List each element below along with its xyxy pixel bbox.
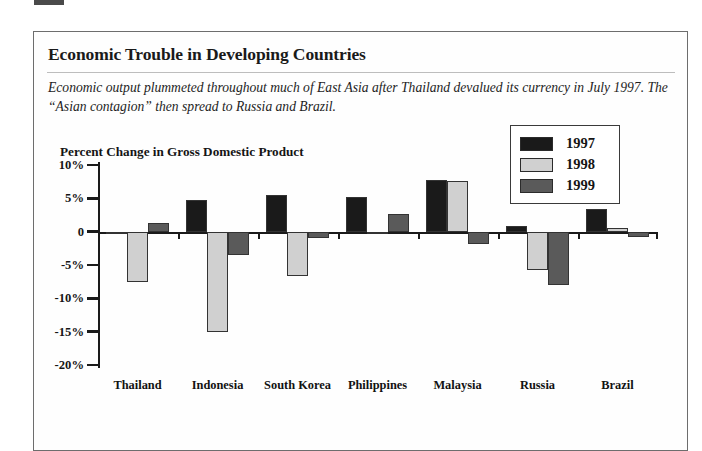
x-axis-tick <box>498 233 500 239</box>
x-axis-category-label: Thailand <box>113 378 161 393</box>
y-axis-tick-label: -20% <box>55 358 84 373</box>
chart-bar <box>586 209 607 232</box>
legend-item: 1997 <box>520 133 610 154</box>
chart-bar <box>367 232 388 234</box>
title-divider <box>47 72 675 73</box>
x-axis-tick <box>656 233 658 239</box>
chart-bar <box>607 228 628 231</box>
y-axis-tick-label: -10% <box>55 291 84 306</box>
chart-bar <box>447 181 468 232</box>
chart-bar <box>548 232 569 285</box>
y-axis-tick <box>87 197 100 199</box>
chart-bar <box>186 200 207 231</box>
x-axis-category-label: Brazil <box>601 378 633 393</box>
legend-label: 1997 <box>566 135 595 152</box>
y-axis-tick-label: 5% <box>65 191 84 206</box>
x-axis-tick <box>258 233 260 239</box>
x-axis-category-label: Russia <box>520 378 555 393</box>
y-axis-tick <box>87 297 100 299</box>
figure-deck: Economic output plummeted throughout muc… <box>48 78 673 117</box>
y-axis-tick-label: 0 <box>78 224 84 239</box>
y-axis-tick <box>87 164 100 166</box>
figure-frame: Economic Trouble in Developing Countries… <box>33 31 688 451</box>
chart-bar <box>266 195 287 232</box>
y-axis-tick <box>87 230 100 232</box>
chart-bar <box>388 214 409 232</box>
y-axis-tick-label: -15% <box>55 324 84 339</box>
x-axis-tick <box>338 233 340 239</box>
y-axis-tick-label: -5% <box>61 258 84 273</box>
page-title: Economic Trouble in Developing Countries <box>48 44 366 65</box>
x-axis-tick <box>418 233 420 239</box>
page-corner-artifact <box>34 0 64 5</box>
chart-bar <box>228 232 249 255</box>
chart-bar <box>628 232 649 237</box>
chart-bar <box>346 197 367 232</box>
chart-bar <box>468 232 489 244</box>
chart-plot-area: 10%5%0-5%-10%-15%-20%ThailandIndonesiaSo… <box>98 165 658 365</box>
legend-swatch-icon <box>520 137 553 151</box>
chart-bar <box>207 232 228 332</box>
chart-bar <box>308 232 329 239</box>
x-axis-tick <box>578 233 580 239</box>
chart-bar <box>426 180 447 232</box>
chart-bar <box>106 232 127 235</box>
chart-bar <box>506 226 527 232</box>
y-axis-tick <box>87 330 100 332</box>
x-axis-category-label: Indonesia <box>192 378 244 393</box>
chart-bar <box>527 232 548 270</box>
chart-bar <box>148 223 169 232</box>
chart-bar <box>287 232 308 277</box>
chart-title: Percent Change in Gross Domestic Product <box>60 144 304 160</box>
x-axis-category-label: Philippines <box>348 378 407 393</box>
y-axis-tick <box>87 264 100 266</box>
x-axis-tick <box>178 233 180 239</box>
y-axis-tick-label: 10% <box>59 158 84 173</box>
y-axis-tick <box>87 364 100 366</box>
x-axis-category-label: Malaysia <box>433 378 481 393</box>
x-axis-category-label: South Korea <box>264 378 331 393</box>
chart-bar <box>127 232 148 283</box>
